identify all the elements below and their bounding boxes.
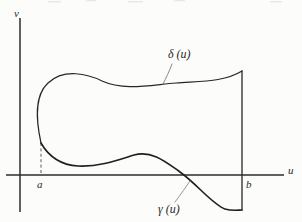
delta-curve [37, 71, 242, 143]
gamma-curve [41, 143, 242, 210]
figure-canvas: v u a b δ (u) γ (u) [0, 0, 302, 222]
delta-curve-label: δ (u) [168, 48, 191, 60]
scan-noise-artifacts [48, 0, 282, 3]
diagram-svg [0, 0, 302, 222]
v-axis-label: v [14, 8, 19, 19]
gamma-curve-label: γ (u) [158, 203, 180, 215]
delta-leader-line [163, 64, 172, 84]
gamma-leader-line [175, 181, 190, 202]
tick-label-a: a [37, 179, 43, 190]
tick-label-b: b [246, 179, 252, 190]
u-axis-label: u [288, 165, 294, 176]
